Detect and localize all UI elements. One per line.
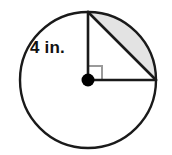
radius-measure-label: 4 in. — [30, 38, 65, 57]
geometry-figure: 4 in. — [0, 0, 172, 155]
circle-diagram-svg: 4 in. — [0, 0, 172, 155]
center-point-dot — [82, 74, 95, 87]
